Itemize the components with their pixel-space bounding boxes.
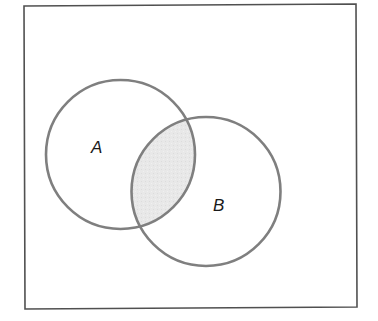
set-b-label: B: [213, 196, 224, 215]
set-a-label: A: [90, 138, 102, 157]
venn-diagram: A B: [0, 0, 378, 321]
